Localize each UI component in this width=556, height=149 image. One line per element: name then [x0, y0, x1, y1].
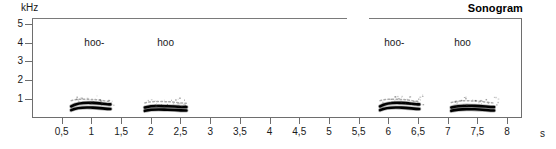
- noise-speck: [498, 102, 499, 103]
- noise-speck: [398, 98, 399, 99]
- noise-speck: [163, 106, 165, 107]
- call-trace: [451, 97, 499, 111]
- noise-speck: [111, 102, 112, 103]
- spectrogram-traces: [32, 18, 522, 118]
- x-tick-label: 2: [148, 127, 154, 137]
- noise-speck: [185, 105, 186, 106]
- noise-speck: [400, 102, 402, 103]
- x-tick-mark: [240, 118, 241, 124]
- x-tick-label: 1: [89, 127, 95, 137]
- plot-area: 54321 0,511,522,533,544,555,566,577,58 h…: [32, 18, 522, 118]
- noise-speck: [455, 102, 457, 103]
- noise-speck: [108, 100, 109, 101]
- noise-speck: [497, 104, 498, 106]
- noise-speck: [177, 103, 179, 104]
- noise-speck: [151, 99, 153, 100]
- noise-speck: [480, 100, 481, 101]
- noise-speck: [179, 97, 181, 98]
- noise-speck: [495, 97, 497, 98]
- noise-speck: [74, 105, 75, 106]
- x-tick-label: 6,5: [411, 127, 425, 137]
- x-tick-mark: [91, 118, 92, 124]
- harmonic-band: [145, 109, 187, 110]
- noise-speck: [113, 105, 114, 106]
- y-tick-label: 5: [11, 19, 23, 29]
- noise-speck: [468, 106, 469, 107]
- x-tick-mark: [448, 118, 449, 124]
- call-trace: [145, 97, 187, 110]
- x-tick-label: 7,5: [471, 127, 485, 137]
- noise-speck: [422, 96, 423, 97]
- noise-speck: [184, 99, 185, 101]
- x-tick-mark: [121, 118, 122, 124]
- noise-speck: [156, 103, 157, 104]
- noise-speck: [419, 97, 421, 98]
- x-tick-label: 4,5: [292, 127, 306, 137]
- x-tick-mark: [388, 118, 389, 124]
- x-tick-label: 1,5: [114, 127, 128, 137]
- x-tick-mark: [62, 118, 63, 124]
- noise-speck: [385, 104, 387, 105]
- noise-speck: [466, 105, 468, 106]
- noise-speck: [420, 99, 421, 100]
- noise-speck: [100, 100, 102, 101]
- noise-speck: [382, 102, 383, 103]
- y-tick-mark: [25, 43, 32, 44]
- noise-speck: [481, 103, 482, 104]
- noise-speck: [402, 96, 403, 97]
- y-tick-label: 2: [11, 75, 23, 85]
- noise-speck: [390, 99, 391, 100]
- noise-speck: [472, 99, 473, 100]
- noise-speck: [461, 100, 463, 101]
- noise-speck: [164, 100, 165, 101]
- x-tick-mark: [507, 118, 508, 124]
- noise-speck: [475, 100, 477, 101]
- noise-speck: [488, 103, 490, 104]
- noise-speck: [172, 105, 173, 106]
- x-tick-label: 3,5: [233, 127, 247, 137]
- sonogram-figure: Sonogram kHz s 54321 0,511,522,533,544,5…: [0, 0, 556, 149]
- noise-speck: [167, 104, 168, 105]
- noise-speck: [465, 97, 466, 98]
- x-tick-label: 3: [207, 127, 213, 137]
- x-tick-mark: [418, 118, 419, 124]
- x-tick-label: 2,5: [174, 127, 188, 137]
- noise-speck: [390, 102, 392, 104]
- noise-speck: [414, 105, 415, 106]
- noise-speck: [112, 101, 113, 103]
- noise-speck: [155, 106, 157, 107]
- noise-speck: [107, 103, 109, 104]
- figure-title: Sonogram: [468, 2, 523, 14]
- noise-speck: [155, 101, 156, 102]
- x-axis-unit-label: s: [540, 128, 545, 139]
- noise-speck: [148, 100, 149, 101]
- noise-speck: [401, 97, 402, 98]
- noise-speck: [482, 101, 483, 102]
- x-tick-mark: [299, 118, 300, 124]
- noise-speck: [93, 101, 95, 102]
- y-tick-mark: [25, 99, 32, 100]
- noise-speck: [417, 102, 419, 103]
- x-tick-label: 7: [445, 127, 451, 137]
- harmonic-band: [145, 106, 187, 107]
- x-tick-label: 5,5: [352, 127, 366, 137]
- noise-speck: [178, 105, 180, 106]
- noise-speck: [465, 98, 466, 99]
- noise-speck: [81, 98, 82, 99]
- noise-speck: [478, 103, 480, 104]
- noise-speck: [155, 104, 156, 105]
- noise-speck: [183, 104, 184, 105]
- y-tick-label: 1: [11, 94, 23, 104]
- noise-speck: [410, 96, 412, 97]
- noise-speck: [91, 103, 93, 104]
- noise-speck: [418, 98, 419, 100]
- y-tick-mark: [25, 80, 32, 81]
- noise-speck: [161, 104, 162, 105]
- noise-speck: [179, 103, 180, 104]
- x-tick-label: 0,5: [55, 127, 69, 137]
- noise-speck: [87, 98, 89, 99]
- noise-speck: [90, 102, 92, 104]
- y-tick-label: 4: [11, 38, 23, 48]
- noise-speck: [178, 99, 179, 100]
- call-trace: [71, 96, 114, 110]
